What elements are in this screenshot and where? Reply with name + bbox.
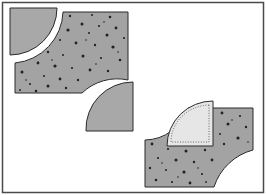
quilt-diagram-svg — [0, 0, 266, 195]
quilt-diagram — [0, 0, 266, 195]
